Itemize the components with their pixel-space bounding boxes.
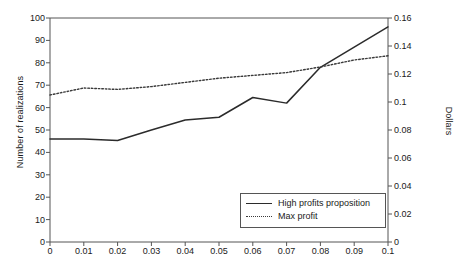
legend-label: Max profit — [278, 211, 318, 222]
legend-line-solid-icon — [246, 199, 272, 209]
legend-label: High profits proposition — [278, 198, 370, 209]
legend-line-dotted-icon — [246, 212, 272, 222]
legend-entry-max-profit: Max profit — [246, 210, 380, 223]
series-line-high-profits-proposition — [50, 27, 388, 141]
legend-entry-high-profits-proposition: High profits proposition — [246, 197, 380, 210]
chart-legend: High profits proposition Max profit — [240, 193, 386, 228]
data-series-group — [50, 27, 388, 141]
series-line-max-profit — [50, 56, 388, 95]
